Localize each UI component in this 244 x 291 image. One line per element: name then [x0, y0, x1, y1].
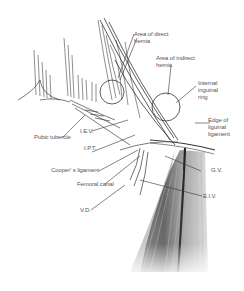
label-coopers-ligament: Cooper' s ligament	[51, 167, 99, 174]
label-area-indirect-hernia: Area of indirect hernia	[156, 55, 195, 69]
label-eiv: E.I.V.	[203, 193, 217, 200]
label-edge-of-inguinal-ligament: Edge of liguinal ligament	[208, 117, 230, 138]
anatomy-illustration	[0, 0, 244, 291]
direct-hernia-area-circle	[100, 80, 124, 104]
abdominal-wall-fibers	[34, 20, 140, 118]
label-femoral-canal: Femoral canal	[77, 181, 114, 188]
label-internal-inguinal-ring: Internal inguinal ring	[198, 80, 218, 101]
thigh-vessels-shading	[125, 148, 215, 275]
label-area-direct-hernia: Area of direct hernia	[134, 31, 168, 45]
label-vd: V.D.	[80, 207, 91, 214]
label-ipt: I.P.T.	[84, 145, 96, 152]
label-gv: G.V.	[211, 167, 222, 174]
label-iev: I.E.V.	[80, 128, 94, 135]
label-pubic-tubercle: Pubic tubercle	[34, 134, 71, 141]
inguinal-anatomy-diagram: Area of direct hernia Area of indirect h…	[0, 0, 244, 291]
